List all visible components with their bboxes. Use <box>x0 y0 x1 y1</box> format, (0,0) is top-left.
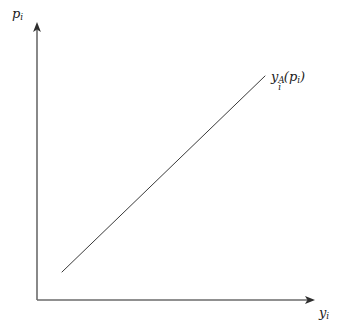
figure-background <box>0 0 343 330</box>
curve-label-argument-base: p <box>289 69 297 84</box>
x-axis-label-subscript: i <box>326 311 329 321</box>
supply-curve-label: yAi(pi) <box>271 70 305 85</box>
y-axis-label-subscript: i <box>20 12 23 22</box>
curve-label-close-paren: ) <box>300 69 305 84</box>
y-axis-label: pi <box>12 7 23 22</box>
x-axis-label: yi <box>319 306 329 321</box>
curve-label-subscript: i <box>278 83 281 92</box>
supply-curve-figure: pi yi yAi(pi) <box>0 0 343 330</box>
plot-canvas <box>0 0 343 330</box>
